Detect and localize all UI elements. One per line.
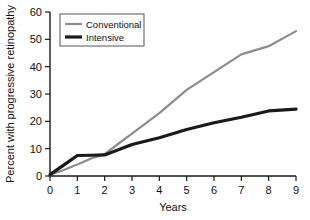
x-tick-label: 4 bbox=[156, 184, 162, 196]
legend-label-intensive: Intensive bbox=[86, 32, 124, 43]
x-tick-label: 8 bbox=[266, 184, 272, 196]
x-axis-title: Years bbox=[159, 201, 187, 213]
x-axis-ticks: 0123456789 bbox=[47, 176, 299, 196]
y-tick-label: 10 bbox=[30, 143, 42, 155]
chart-svg: 0102030405060 0123456789 Percent with pr… bbox=[0, 0, 310, 220]
x-tick-label: 5 bbox=[184, 184, 190, 196]
y-tick-label: 40 bbox=[30, 61, 42, 73]
x-tick-label: 0 bbox=[47, 184, 53, 196]
chart-legend: Conventional Intensive bbox=[60, 14, 144, 46]
x-tick-label: 1 bbox=[74, 184, 80, 196]
series-line-intensive bbox=[50, 109, 296, 175]
retinopathy-line-chart: 0102030405060 0123456789 Percent with pr… bbox=[0, 0, 310, 220]
x-tick-label: 2 bbox=[102, 184, 108, 196]
x-tick-label: 6 bbox=[211, 184, 217, 196]
x-tick-label: 9 bbox=[293, 184, 299, 196]
data-series-group bbox=[50, 31, 296, 175]
legend-label-conventional: Conventional bbox=[86, 19, 141, 30]
y-tick-label: 60 bbox=[30, 6, 42, 18]
y-tick-label: 30 bbox=[30, 88, 42, 100]
series-line-conventional bbox=[50, 31, 296, 175]
y-tick-label: 0 bbox=[36, 170, 42, 182]
y-axis-ticks: 0102030405060 bbox=[30, 6, 50, 182]
x-tick-label: 3 bbox=[129, 184, 135, 196]
y-tick-label: 50 bbox=[30, 33, 42, 45]
y-tick-label: 20 bbox=[30, 115, 42, 127]
y-axis-title: Percent with progressive retinopathy bbox=[4, 5, 16, 183]
x-tick-label: 7 bbox=[238, 184, 244, 196]
